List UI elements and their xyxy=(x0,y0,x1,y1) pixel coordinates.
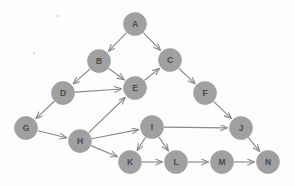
node-circle-h[interactable] xyxy=(69,130,92,153)
edge-b-to-e xyxy=(109,68,124,80)
edge-g-to-h xyxy=(38,131,67,138)
node-circle-l[interactable] xyxy=(165,151,188,174)
edge-a-to-c xyxy=(143,33,160,51)
node-circle-k[interactable] xyxy=(119,151,142,174)
node-circle-d[interactable] xyxy=(52,82,75,105)
edge-h-to-e xyxy=(89,98,125,133)
edge-e-to-c xyxy=(144,69,159,81)
node-m[interactable]: M xyxy=(211,151,234,174)
node-l[interactable]: L xyxy=(165,151,188,174)
edge-h-to-i xyxy=(92,130,139,139)
node-circle-n[interactable] xyxy=(257,151,280,174)
node-n[interactable]: N xyxy=(257,151,280,174)
edge-b-to-d xyxy=(73,69,90,84)
node-f[interactable]: F xyxy=(194,82,217,105)
edge-i-to-l xyxy=(159,137,168,151)
node-circle-e[interactable] xyxy=(124,77,147,100)
node-i[interactable]: I xyxy=(141,116,164,139)
node-c[interactable]: C xyxy=(159,49,182,72)
node-circle-m[interactable] xyxy=(211,151,234,174)
node-e[interactable]: E xyxy=(124,77,147,100)
edge-a-to-b xyxy=(109,33,127,52)
scan-speck-2 xyxy=(33,52,34,53)
edge-i-to-k xyxy=(137,137,145,150)
node-circle-b[interactable] xyxy=(88,50,111,73)
edge-h-to-k xyxy=(91,146,117,157)
node-g[interactable]: G xyxy=(15,117,38,140)
node-k[interactable]: K xyxy=(119,151,142,174)
node-circle-i[interactable] xyxy=(141,116,164,139)
edge-i-to-j xyxy=(164,127,227,128)
edge-j-to-n xyxy=(248,137,259,151)
node-j[interactable]: J xyxy=(230,117,253,140)
node-d[interactable]: D xyxy=(52,82,75,105)
node-circle-j[interactable] xyxy=(230,117,253,140)
node-a[interactable]: A xyxy=(124,13,147,36)
edge-d-to-g xyxy=(36,101,54,118)
node-h[interactable]: H xyxy=(69,130,92,153)
edge-d-to-e xyxy=(75,89,121,92)
node-circle-c[interactable] xyxy=(159,49,182,72)
node-b[interactable]: B xyxy=(88,50,111,73)
node-circle-f[interactable] xyxy=(194,82,217,105)
node-circle-g[interactable] xyxy=(15,117,38,140)
edge-c-to-f xyxy=(179,68,195,83)
directed-graph-diagram: ABCDEFGHIJKLMN xyxy=(0,0,295,186)
node-circle-a[interactable] xyxy=(124,13,147,36)
edge-f-to-j xyxy=(214,101,232,118)
scan-speck-1 xyxy=(57,15,59,17)
graph-canvas: ABCDEFGHIJKLMN xyxy=(0,0,295,186)
